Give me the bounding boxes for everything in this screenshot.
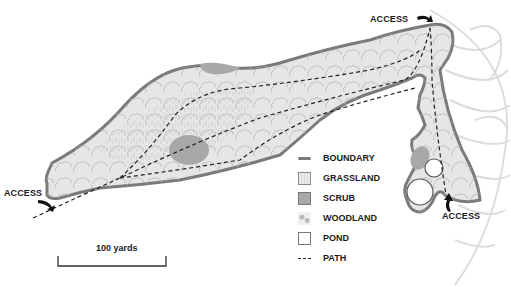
map-legend: BOUNDARY GRASSLAND SCRUB WOODLAND POND P… bbox=[298, 148, 408, 268]
scrub-swatch-icon bbox=[298, 192, 311, 205]
access-arrow-west bbox=[38, 200, 55, 212]
legend-item-grassland: GRASSLAND bbox=[298, 168, 408, 188]
scale-bar bbox=[58, 256, 166, 266]
legend-item-pond: POND bbox=[298, 228, 408, 248]
pond-small bbox=[425, 159, 443, 177]
access-label-south: ACCESS bbox=[442, 211, 480, 221]
legend-item-scrub: SCRUB bbox=[298, 188, 408, 208]
legend-item-boundary: BOUNDARY bbox=[298, 148, 408, 168]
nature-reserve-map: ACCESS ACCESS ACCESS 100 yards BOUNDARY … bbox=[0, 0, 511, 287]
pond-large bbox=[407, 179, 433, 205]
access-label-west: ACCESS bbox=[4, 188, 42, 198]
boundary-line-icon bbox=[298, 157, 311, 160]
scale-bar-label: 100 yards bbox=[96, 243, 138, 253]
access-arrow-north bbox=[417, 15, 433, 22]
pond-swatch-icon bbox=[298, 232, 311, 245]
woodland-swatch-icon bbox=[298, 212, 311, 225]
grassland-swatch-icon bbox=[298, 172, 311, 185]
path-dashed-line-icon bbox=[298, 258, 311, 259]
map-canvas bbox=[0, 0, 511, 287]
legend-item-path: PATH bbox=[298, 248, 408, 268]
access-label-north: ACCESS bbox=[370, 14, 408, 24]
legend-item-woodland: WOODLAND bbox=[298, 208, 408, 228]
scrub-patch-center bbox=[169, 135, 209, 165]
